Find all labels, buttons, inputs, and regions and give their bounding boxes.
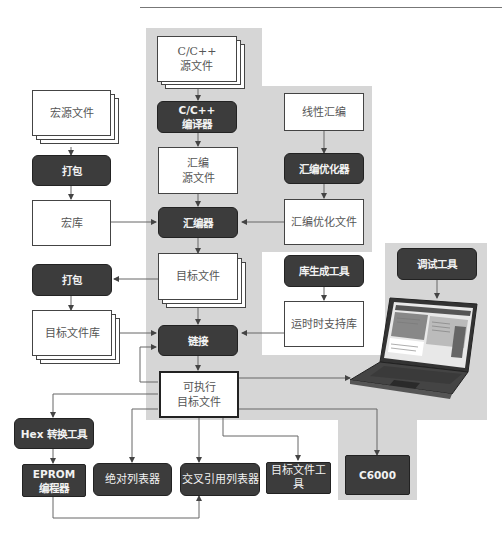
- c6000-target[interactable]: C6000: [345, 455, 410, 495]
- c-source-file[interactable]: C/C++ 源文件: [157, 36, 237, 82]
- eprom-programmer[interactable]: EPROM 编程器: [22, 464, 86, 497]
- object-file-utilities[interactable]: 目标文件工具: [266, 462, 331, 494]
- asm-optimized-file[interactable]: 汇编优化文件: [284, 199, 364, 245]
- absolute-lister[interactable]: 绝对列表器: [93, 463, 172, 496]
- hex-conversion-tool[interactable]: Hex 转换工具: [14, 418, 94, 449]
- debugger-tool[interactable]: 调试工具: [397, 248, 477, 280]
- macro-library-file[interactable]: 宏库: [32, 200, 111, 246]
- linker[interactable]: 链接: [158, 325, 238, 356]
- macro-source-file[interactable]: 宏源文件: [32, 90, 111, 136]
- laptop-icon: [350, 296, 480, 401]
- object-file[interactable]: 目标文件: [158, 253, 238, 300]
- cross-reference-lister[interactable]: 交叉引用列表器: [180, 463, 260, 496]
- asm-source-file[interactable]: 汇编 源文件: [158, 147, 238, 194]
- asm-optimizer[interactable]: 汇编优化器: [284, 153, 364, 184]
- object-library-file[interactable]: 目标文件库: [32, 310, 112, 356]
- pack-object-tool[interactable]: 打包: [32, 264, 112, 296]
- assembler[interactable]: 汇编器: [158, 207, 238, 238]
- linear-asm-file[interactable]: 线性汇编: [284, 93, 364, 131]
- c-compiler[interactable]: C/C++ 编译器: [157, 101, 237, 133]
- pack-macro-tool[interactable]: 打包: [32, 155, 111, 186]
- library-builder[interactable]: 库生成工具: [284, 255, 364, 287]
- executable-object-file[interactable]: 可执行 目标文件: [159, 371, 239, 418]
